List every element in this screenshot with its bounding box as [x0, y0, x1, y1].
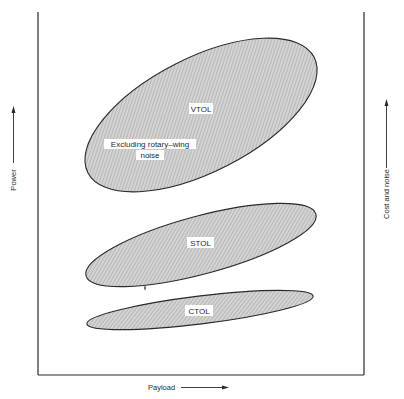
diagram-canvas: VTOL Excluding rotary–wing noise STOL CT…	[0, 0, 404, 399]
y-axis-left-label: Power	[9, 169, 18, 191]
region-stol: STOL	[79, 186, 324, 304]
y-axis-right: Cost and noise	[382, 99, 391, 219]
vtol-note-line2: noise	[140, 151, 160, 160]
vtol-note-line1: Excluding rotary–wing	[111, 140, 189, 149]
stol-label: STOL	[190, 239, 211, 248]
ctol-label: CTOL	[188, 307, 210, 316]
y-axis-left: Power	[9, 106, 18, 191]
arrow-up-icon	[385, 99, 389, 106]
x-axis: Payload	[148, 383, 229, 392]
speck	[144, 286, 146, 290]
arrow-right-icon	[222, 386, 229, 390]
vtol-ellipse	[62, 7, 340, 224]
region-ctol: CTOL	[85, 282, 315, 338]
region-vtol: VTOL Excluding rotary–wing noise	[62, 7, 340, 224]
vtol-label: VTOL	[191, 105, 212, 114]
x-axis-label: Payload	[148, 383, 175, 392]
arrow-up-icon	[12, 106, 16, 113]
y-axis-right-label: Cost and noise	[382, 169, 391, 219]
